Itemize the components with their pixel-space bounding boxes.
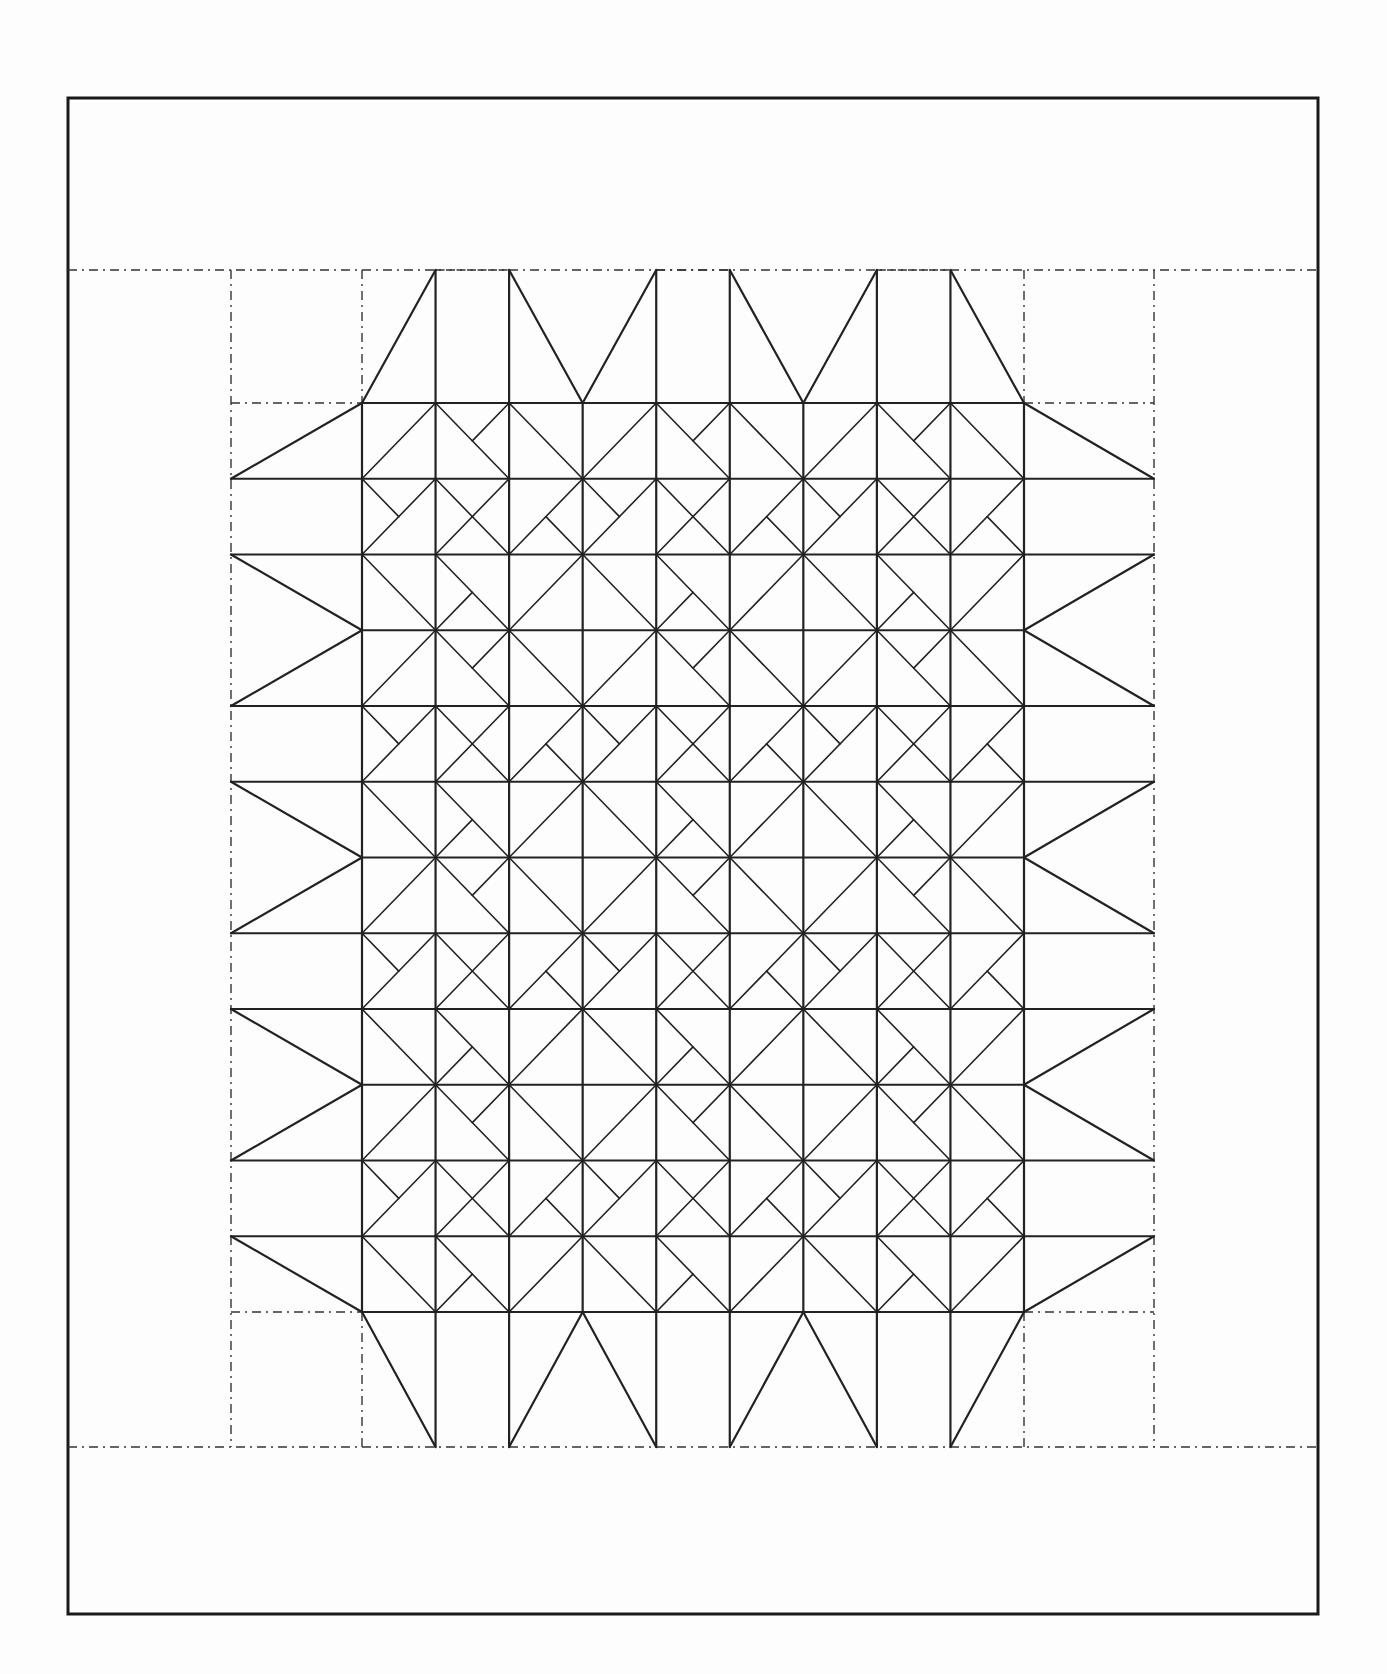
- cell-diagonal: [509, 1236, 583, 1312]
- cell-diagonal: [362, 1009, 436, 1085]
- left-triangle-edge: [231, 782, 362, 858]
- cell-diagonal: [730, 1009, 804, 1085]
- bottom-triangle-edge: [362, 1312, 436, 1447]
- top-triangle-edge: [730, 270, 804, 403]
- right-triangle-edge: [1024, 1009, 1154, 1085]
- cell-diagonal: [362, 403, 436, 479]
- cell-diagonal: [730, 1085, 804, 1161]
- cell-half-diagonal: [362, 479, 399, 517]
- cell-diagonal: [583, 403, 657, 479]
- cell-half-diagonal: [436, 1274, 473, 1312]
- cell-diagonal: [583, 630, 657, 706]
- cell-diagonal: [509, 1009, 583, 1085]
- cell-half-diagonal: [546, 971, 583, 1009]
- cell-diagonal: [950, 1009, 1024, 1085]
- cell-half-diagonal: [767, 744, 804, 782]
- cell-half-diagonal: [472, 1085, 509, 1123]
- cell-half-diagonal: [583, 479, 620, 517]
- right-triangle-edge: [1024, 782, 1154, 858]
- right-triangle-edge: [1024, 403, 1154, 479]
- cell-half-diagonal: [693, 858, 730, 896]
- cell-diagonal: [583, 1085, 657, 1161]
- cell-half-diagonal: [546, 744, 583, 782]
- cell-diagonal: [583, 1236, 657, 1312]
- cell-half-diagonal: [914, 858, 951, 896]
- cell-half-diagonal: [472, 858, 509, 896]
- cell-half-diagonal: [583, 1161, 620, 1199]
- cell-half-diagonal: [656, 1274, 693, 1312]
- cell-diagonal: [509, 555, 583, 631]
- cell-half-diagonal: [877, 1274, 914, 1312]
- cell-half-diagonal: [693, 403, 730, 441]
- cell-diagonal: [583, 1009, 657, 1085]
- cell-diagonal: [362, 1085, 436, 1161]
- right-triangle-edge: [1024, 630, 1154, 706]
- left-triangle-edge: [231, 1085, 362, 1161]
- cell-half-diagonal: [656, 820, 693, 858]
- cell-half-diagonal: [914, 630, 951, 668]
- cell-half-diagonal: [472, 403, 509, 441]
- cell-diagonal: [509, 403, 583, 479]
- cell-diagonal: [509, 858, 583, 934]
- cell-half-diagonal: [546, 1198, 583, 1236]
- right-triangle-edge: [1024, 858, 1154, 934]
- cell-diagonal: [362, 782, 436, 858]
- cell-diagonal: [803, 782, 877, 858]
- cell-diagonal: [950, 630, 1024, 706]
- cell-half-diagonal: [877, 592, 914, 630]
- cell-diagonal: [362, 1236, 436, 1312]
- cell-half-diagonal: [877, 820, 914, 858]
- cell-diagonal: [583, 858, 657, 934]
- cell-half-diagonal: [987, 517, 1024, 555]
- cell-diagonal: [583, 782, 657, 858]
- top-triangle-edge: [583, 270, 657, 403]
- cell-diagonal: [730, 555, 804, 631]
- right-triangle-edge: [1024, 555, 1154, 631]
- cell-diagonal: [730, 858, 804, 934]
- cell-half-diagonal: [767, 517, 804, 555]
- cell-diagonal: [803, 1236, 877, 1312]
- left-triangle-edge: [231, 858, 362, 934]
- quilt-diagram: [0, 0, 1387, 1674]
- cell-half-diagonal: [362, 933, 399, 971]
- cell-half-diagonal: [803, 706, 840, 744]
- cell-half-diagonal: [436, 1047, 473, 1085]
- cell-diagonal: [950, 403, 1024, 479]
- cell-diagonal: [950, 1236, 1024, 1312]
- left-triangle-edge: [231, 1009, 362, 1085]
- cell-diagonal: [803, 858, 877, 934]
- cell-half-diagonal: [767, 1198, 804, 1236]
- cell-half-diagonal: [803, 479, 840, 517]
- left-triangle-edge: [231, 1236, 362, 1312]
- cell-diagonal: [730, 403, 804, 479]
- cell-half-diagonal: [987, 744, 1024, 782]
- cell-diagonal: [362, 630, 436, 706]
- cell-half-diagonal: [656, 1047, 693, 1085]
- cell-diagonal: [950, 1085, 1024, 1161]
- cell-diagonal: [509, 782, 583, 858]
- bottom-triangle-edge: [730, 1312, 804, 1447]
- top-triangle-edge: [509, 270, 583, 403]
- cell-half-diagonal: [914, 403, 951, 441]
- cell-half-diagonal: [583, 706, 620, 744]
- cell-diagonal: [803, 630, 877, 706]
- bottom-triangle-edge: [509, 1312, 583, 1447]
- cell-diagonal: [803, 1085, 877, 1161]
- cell-half-diagonal: [693, 630, 730, 668]
- right-triangle-edge: [1024, 1236, 1154, 1312]
- cell-diagonal: [362, 858, 436, 934]
- left-triangle-edge: [231, 555, 362, 631]
- cell-half-diagonal: [546, 517, 583, 555]
- cell-diagonal: [950, 782, 1024, 858]
- cell-diagonal: [950, 858, 1024, 934]
- cell-half-diagonal: [803, 933, 840, 971]
- top-triangle-edge: [362, 270, 436, 403]
- cell-diagonal: [362, 555, 436, 631]
- cell-diagonal: [803, 555, 877, 631]
- cell-half-diagonal: [803, 1161, 840, 1199]
- bottom-triangle-edge: [583, 1312, 657, 1447]
- cell-diagonal: [803, 403, 877, 479]
- cell-half-diagonal: [914, 1085, 951, 1123]
- cell-half-diagonal: [472, 630, 509, 668]
- cell-diagonal: [730, 782, 804, 858]
